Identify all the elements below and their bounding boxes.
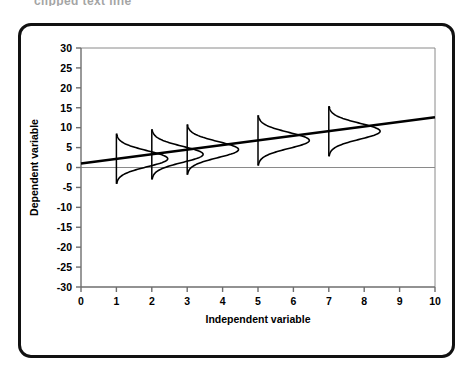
- y-axis-title: Dependent variable: [28, 119, 40, 216]
- x-tick-label: 5: [255, 295, 261, 307]
- x-tick-label: 1: [113, 295, 119, 307]
- y-tick-label: -20: [57, 241, 72, 253]
- chart-figure: 302520151050-5-10-15-20-25-3001234567891…: [0, 0, 471, 381]
- y-tick-label: 10: [60, 121, 72, 133]
- y-tick-label: 5: [66, 141, 72, 153]
- x-tick-label: 10: [429, 295, 441, 307]
- x-tick-label: 2: [149, 295, 155, 307]
- y-tick-label: 30: [60, 42, 72, 54]
- y-tick-label: 20: [60, 82, 72, 94]
- y-tick-label: -15: [57, 221, 72, 233]
- x-tick-label: 6: [290, 295, 296, 307]
- x-tick-label: 7: [326, 295, 332, 307]
- regression-chart: 302520151050-5-10-15-20-25-3001234567891…: [0, 0, 471, 381]
- x-tick-label: 8: [361, 295, 367, 307]
- y-tick-label: 0: [66, 161, 72, 173]
- y-tick-label: -30: [57, 281, 72, 293]
- y-tick-label: -25: [57, 261, 72, 273]
- figure-page: clipped text line 302520151050-5-10-15-2…: [0, 0, 471, 381]
- y-tick-label: -5: [63, 181, 72, 193]
- x-axis-title: Independent variable: [205, 313, 310, 325]
- y-tick-label: 15: [60, 102, 72, 114]
- y-tick-label: 25: [60, 62, 72, 74]
- x-tick-label: 0: [78, 295, 84, 307]
- x-tick-label: 4: [220, 295, 226, 307]
- x-tick-label: 3: [184, 295, 190, 307]
- y-tick-label: -10: [57, 201, 72, 213]
- x-tick-label: 9: [397, 295, 403, 307]
